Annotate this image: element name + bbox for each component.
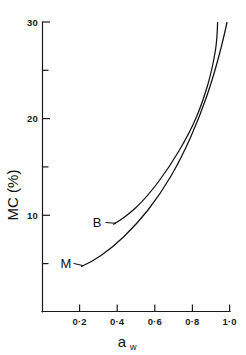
y-tick-label-10: 10 [27, 210, 38, 221]
x-axis-title-subscript: w [129, 342, 137, 352]
x-tick-label-0-2: 0·2 [72, 316, 86, 327]
x-tick-label-0-6: 0·6 [148, 316, 162, 327]
series-label-m: M [61, 256, 72, 271]
chart-background [0, 0, 246, 355]
x-axis-title-base: a [118, 333, 127, 350]
y-tick-label-20: 20 [27, 113, 38, 124]
sorption-isotherm-chart: 30 20 10 0·2 0·4 0·6 0·8 1·0 MC (%) a w … [0, 0, 246, 355]
y-axis-title: MC (%) [4, 170, 21, 221]
x-tick-label-0-8: 0·8 [185, 316, 199, 327]
x-tick-label-0-4: 0·4 [110, 316, 125, 327]
y-tick-label-30: 30 [27, 17, 38, 28]
chart-canvas: 30 20 10 0·2 0·4 0·6 0·8 1·0 MC (%) a w … [0, 0, 246, 355]
series-label-b: B [93, 215, 102, 230]
x-tick-label-1-0: 1·0 [222, 316, 236, 327]
